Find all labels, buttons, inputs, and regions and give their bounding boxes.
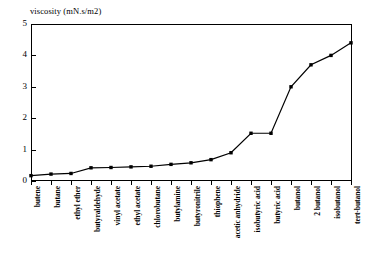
- x-tick-mark: [91, 181, 92, 185]
- viscosity-line-chart: viscosity (mN.s/m2) 012345 butenebutanee…: [0, 0, 371, 261]
- x-tick-mark: [51, 181, 52, 185]
- data-point-marker: [209, 158, 212, 161]
- data-point-marker: [349, 41, 352, 44]
- y-tick-label: 4: [7, 50, 27, 59]
- x-category-label: isobutanol: [334, 186, 342, 219]
- x-category-label: butyraldehyde: [94, 186, 102, 232]
- data-point-marker: [189, 161, 192, 164]
- x-category-label: vinyl acetate: [114, 186, 122, 225]
- data-point-marker: [169, 163, 172, 166]
- x-tick-mark: [231, 181, 232, 185]
- y-tick-label: 1: [7, 145, 27, 154]
- data-point-marker: [329, 54, 332, 57]
- data-point-marker: [229, 151, 232, 154]
- x-category-label: isobutyric acid: [254, 186, 262, 232]
- x-tick-mark: [271, 181, 272, 185]
- x-tick-mark: [151, 181, 152, 185]
- data-point-marker: [249, 132, 252, 135]
- x-tick-mark: [31, 181, 32, 185]
- x-tick-mark: [251, 181, 252, 185]
- x-tick-mark: [131, 181, 132, 185]
- y-axis-tick-labels: 012345: [6, 24, 27, 181]
- x-category-label: butyronitrile: [194, 186, 202, 226]
- y-tick-label: 5: [7, 19, 27, 28]
- x-tick-mark: [71, 181, 72, 185]
- x-axis-category-labels: butenebutaneethyl etherbutyraldehydeviny…: [31, 186, 352, 261]
- x-tick-mark: [331, 181, 332, 185]
- data-point-marker: [129, 165, 132, 168]
- x-category-label: ethyl acetate: [134, 186, 142, 225]
- x-category-label: 2 butanol: [314, 186, 322, 216]
- series-polyline: [31, 43, 351, 176]
- data-series-layer: [31, 24, 352, 181]
- x-tick-mark: [171, 181, 172, 185]
- data-point-marker: [69, 172, 72, 175]
- data-point-marker: [89, 166, 92, 169]
- series-markers: [29, 41, 352, 177]
- data-point-marker: [49, 172, 52, 175]
- x-category-label: butane: [54, 186, 62, 208]
- x-tick-mark: [211, 181, 212, 185]
- data-point-marker: [29, 174, 32, 177]
- x-category-label: butanol: [294, 186, 302, 210]
- data-point-marker: [289, 85, 292, 88]
- data-point-marker: [109, 166, 112, 169]
- data-point-marker: [269, 132, 272, 135]
- x-category-label: chlorobutane: [154, 186, 162, 228]
- x-tick-mark: [291, 181, 292, 185]
- x-category-label: butene: [34, 186, 42, 207]
- y-tick-label: 0: [7, 176, 27, 185]
- data-point-marker: [149, 165, 152, 168]
- y-tick-label: 2: [7, 113, 27, 122]
- x-category-label: ethyl ether: [74, 186, 82, 220]
- x-category-label: butyric acid: [274, 186, 282, 224]
- x-tick-mark: [111, 181, 112, 185]
- y-axis-title: viscosity (mN.s/m2): [30, 6, 101, 16]
- x-tick-mark: [311, 181, 312, 185]
- x-category-label: thiophene: [214, 186, 222, 217]
- data-point-marker: [309, 63, 312, 66]
- y-tick-label: 3: [7, 82, 27, 91]
- x-category-label: butylamine: [174, 186, 182, 222]
- y-tick-mark: [32, 181, 36, 182]
- x-category-label: acetic anhydride: [234, 186, 242, 238]
- x-category-label: tert-butanol: [354, 186, 362, 224]
- x-tick-mark: [351, 181, 352, 185]
- x-tick-mark: [191, 181, 192, 185]
